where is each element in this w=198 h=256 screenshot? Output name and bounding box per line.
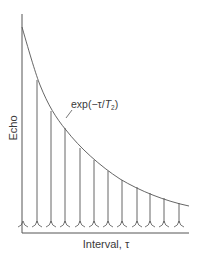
echo-pulse <box>32 80 42 227</box>
echo-pulse <box>75 148 85 227</box>
echo-pulse <box>132 187 142 227</box>
echo-pulse <box>174 203 184 227</box>
echo-pulse <box>159 198 169 227</box>
y-axis-label: Echo <box>7 115 19 140</box>
curve-label: exp(−τ/T2) <box>71 98 118 111</box>
echo-decay-diagram: exp(−τ/T2) Echo Interval, τ <box>0 0 198 256</box>
echo-pulse <box>145 193 155 227</box>
label-leader-line <box>66 110 72 118</box>
echo-pulse <box>117 180 127 227</box>
exp-decay-curve <box>22 27 189 206</box>
x-axis-label: Interval, τ <box>83 238 130 250</box>
echo-pulse <box>103 171 113 227</box>
echo-pulse <box>18 221 28 227</box>
echo-pulse <box>46 111 56 227</box>
echo-pulse <box>89 160 99 227</box>
echo-pulse <box>60 128 70 227</box>
